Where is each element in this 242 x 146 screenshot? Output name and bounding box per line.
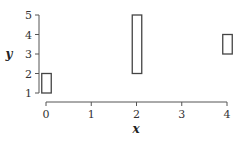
x-tick-label: 1 [88, 108, 95, 121]
x-tick-label: 0 [43, 108, 50, 121]
y-tick-label: 2 [25, 68, 32, 81]
y-axis-title: y [5, 47, 14, 61]
y-tick-label: 1 [25, 87, 32, 100]
chart: 12345 01234 x y [0, 0, 242, 146]
y-axis: 12345 [25, 9, 39, 100]
y-tick-label: 3 [25, 48, 32, 61]
data-rectangle [132, 15, 142, 74]
y-tick-label: 5 [25, 9, 32, 22]
data-rectangle [223, 35, 233, 55]
data-rectangles [42, 15, 233, 93]
x-axis: 01234 [43, 102, 231, 121]
y-tick-label: 4 [25, 29, 32, 42]
x-tick-label: 2 [133, 108, 140, 121]
x-tick-label: 4 [224, 108, 231, 121]
x-tick-label: 3 [178, 108, 185, 121]
x-axis-title: x [131, 122, 140, 136]
data-rectangle [42, 74, 52, 94]
